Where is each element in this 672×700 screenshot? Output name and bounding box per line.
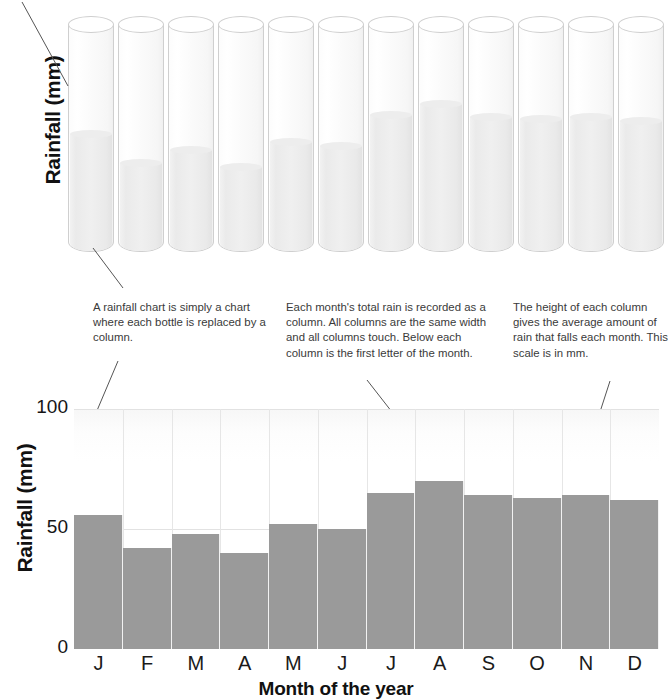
bar-chart-plot-area [74,409,659,649]
y-tick-label-0: 0 [20,636,68,658]
bar-N-11[interactable] [562,495,611,649]
x-tick-label-september: S [464,652,513,675]
x-tick-label-november: N [562,652,611,675]
bottle-glass-rim [568,16,614,33]
x-tick-label-july: J [367,652,416,675]
bottle-12 [618,16,664,259]
bottle-glass-rim [518,16,564,33]
annotation-scale-description: The height of each column gives the aver… [513,300,672,361]
bottle-glass-rim [118,16,164,33]
annotation-column-description: Each month's total rain is recorded as a… [286,300,499,361]
bottle-row [68,16,668,261]
bottle-3 [168,16,214,259]
bottle-water-fill [420,104,462,251]
bar-S-9[interactable] [464,495,513,649]
bottle-glass-rim [68,16,114,33]
bottle-water-surface [570,113,612,121]
x-tick-label-march: M [172,652,221,675]
bottle-water-fill [620,121,662,251]
bottle-water-surface [220,163,262,171]
bar-D-12[interactable] [610,500,659,649]
bottle-water-surface [120,159,162,167]
bottle-water-fill [570,117,612,251]
bottle-6 [318,16,364,259]
x-tick-label-august: A [415,652,464,675]
x-tick-label-january: J [74,652,123,675]
bottle-panel-y-axis-label: Rainfall (mm) [41,35,65,205]
bottle-water-fill [520,119,562,251]
bottle-water-surface [270,138,312,146]
bottle-water-surface [170,146,212,154]
bottle-water-fill [270,142,312,251]
x-tick-label-may: M [269,652,318,675]
bar-J-6[interactable] [318,529,367,649]
bar-F-2[interactable] [123,548,172,649]
bottle-7 [368,16,414,259]
bar-O-10[interactable] [513,498,562,649]
bottle-water-fill [220,167,262,251]
x-tick-label-february: F [123,652,172,675]
bar-M-5[interactable] [269,524,318,649]
bottle-4 [218,16,264,259]
y-tick-label-50: 50 [20,516,68,538]
annotation-rainfall-chart-definition: A rainfall chart is simply a chart where… [93,300,281,346]
bar-A-8[interactable] [415,481,464,649]
bottle-glass-rim [168,16,214,33]
bottle-glass-rim [418,16,464,33]
bottle-water-fill [170,150,212,251]
bottle-glass-rim [618,16,664,33]
bottle-water-surface [420,100,462,108]
bottle-glass-rim [368,16,414,33]
bottle-water-surface [620,117,662,125]
bar-A-4[interactable] [220,553,269,649]
bottle-8 [418,16,464,259]
bottle-2 [118,16,164,259]
bottle-water-fill [370,115,412,251]
bottle-1 [68,16,114,259]
bottle-water-surface [520,115,562,123]
bottle-water-fill [470,117,512,251]
x-tick-label-april: A [220,652,269,675]
x-tick-label-june: J [318,652,367,675]
bottle-water-surface [70,130,112,138]
bottle-water-fill [120,163,162,251]
bottle-water-surface [470,113,512,121]
bottle-water-surface [370,111,412,119]
bar-chart-y-axis-label: Rainfall (mm) [13,423,37,593]
x-tick-label-december: D [610,652,659,675]
bottle-water-surface [320,142,362,150]
bar-J-1[interactable] [74,515,123,649]
y-tick-label-100: 100 [20,396,68,418]
x-axis-title: Month of the year [0,678,672,700]
bottle-water-fill [320,146,362,251]
bottle-glass-rim [268,16,314,33]
bottle-9 [468,16,514,259]
bottle-water-fill [70,134,112,251]
bottle-5 [268,16,314,259]
bottle-10 [518,16,564,259]
x-tick-label-october: O [513,652,562,675]
bottle-glass-rim [218,16,264,33]
bottle-glass-rim [468,16,514,33]
bottle-glass-rim [318,16,364,33]
bar-M-3[interactable] [172,534,221,649]
bottle-illustration-panel: Rainfall (mm) [0,0,672,275]
bar-J-7[interactable] [367,493,416,649]
rainfall-bar-chart-panel: Rainfall (mm) 050100 JFMAMJJASOND Month … [0,390,672,696]
bottle-11 [568,16,614,259]
